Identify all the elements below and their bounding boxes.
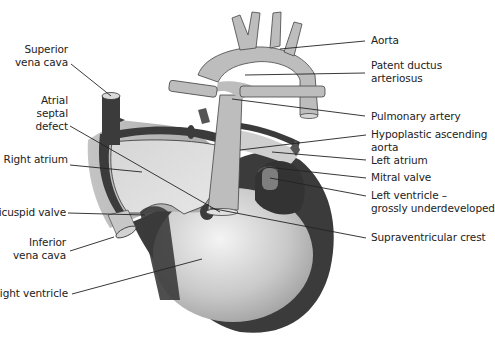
left-pulmonary-branch — [168, 80, 217, 98]
pulmonary-valve — [206, 209, 238, 216]
descending-aorta-end — [300, 114, 318, 119]
carotid-branch — [270, 12, 281, 48]
label-supraventricular-crest: Supraventricular crest — [371, 231, 486, 244]
label-superior-vena-cava: Superior vena cava — [15, 43, 68, 69]
aortic-arch — [198, 47, 318, 115]
label-patent-ductus-arteriosus: Patent ductus arteriosus — [371, 59, 442, 85]
heart-body — [88, 12, 334, 333]
brachiocephalic-branch — [232, 12, 260, 50]
label-aorta: Aorta — [371, 34, 399, 47]
hypoplastic-aorta-vessel — [198, 108, 210, 124]
left-ventricle-muscle — [255, 161, 305, 214]
label-mitral-valve: Mitral valve — [371, 171, 431, 184]
atrial-septum-bump — [187, 125, 195, 139]
leader-superior-vena-cava — [71, 64, 111, 96]
right-pulmonary-branch — [240, 86, 325, 97]
label-left-ventricle: Left ventricle – grossly underdeveloped — [371, 189, 495, 215]
label-tricuspid-valve: Tricuspid valve — [0, 206, 66, 219]
label-right-atrium: Right atrium — [4, 153, 68, 166]
label-inferior-vena-cava: Inferior vena cava — [13, 236, 66, 262]
leader-inferior-vena-cava — [70, 237, 114, 251]
label-atrial-septal-defect: Atrial septal defect — [35, 94, 68, 133]
label-right-ventricle: Right ventricle — [0, 287, 68, 300]
leader-pulmonary-artery — [232, 99, 365, 116]
label-hypoplastic-ascending-aorta: Hypoplastic ascending aorta — [371, 128, 487, 154]
subclavian-branch — [284, 22, 302, 56]
label-left-atrium: Left atrium — [371, 154, 428, 167]
label-pulmonary-artery: Pulmonary artery — [371, 110, 461, 123]
